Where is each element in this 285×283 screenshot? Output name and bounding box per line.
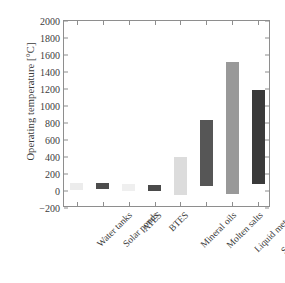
y-tick-label: 0: [55, 186, 64, 197]
y-tick-mark: [265, 208, 269, 209]
bar-ates: [122, 184, 135, 190]
y-tick-mark: [64, 208, 68, 209]
y-tick-mark: [64, 123, 68, 124]
y-tick-mark: [265, 191, 269, 192]
y-tick-label: 1200: [40, 84, 64, 95]
x-tick-mark: [77, 202, 78, 206]
x-tick-mark: [129, 202, 130, 206]
x-tick-mark: [103, 21, 104, 25]
y-tick-mark: [64, 106, 68, 107]
y-tick-label: 2000: [40, 16, 64, 27]
y-tick-mark: [265, 89, 269, 90]
x-tick-label: BTES: [166, 210, 190, 234]
y-tick-mark: [64, 191, 68, 192]
y-tick-mark: [64, 55, 68, 56]
y-tick-mark: [265, 123, 269, 124]
y-tick-label: 200: [45, 169, 64, 180]
y-tick-label: 800: [45, 118, 64, 129]
y-tick-mark: [265, 72, 269, 73]
bar-btes: [148, 185, 161, 191]
x-tick-mark: [232, 202, 233, 206]
x-tick-mark: [206, 21, 207, 25]
x-tick-mark: [232, 21, 233, 25]
y-tick-mark: [265, 55, 269, 56]
x-tick-mark: [258, 21, 259, 25]
y-tick-mark: [64, 89, 68, 90]
y-tick-mark: [64, 174, 68, 175]
x-tick-mark: [155, 21, 156, 25]
y-tick-mark: [265, 21, 269, 22]
y-tick-label: 1000: [40, 101, 64, 112]
y-axis-title: Operating temperature [°C]: [25, 12, 36, 192]
y-tick-mark: [64, 140, 68, 141]
y-tick-label: 1800: [40, 33, 64, 44]
y-tick-mark: [64, 21, 68, 22]
y-tick-mark: [265, 157, 269, 158]
chart-figure: Operating temperature [°C] −200020040060…: [0, 0, 285, 283]
bar-solar-ponds: [96, 183, 109, 189]
y-tick-label: 400: [45, 152, 64, 163]
x-tick-mark: [129, 21, 130, 25]
x-tick-mark: [180, 202, 181, 206]
y-tick-mark: [265, 174, 269, 175]
y-tick-label: 1600: [40, 50, 64, 61]
x-tick-mark: [155, 202, 156, 206]
y-tick-mark: [265, 140, 269, 141]
bar-liquid-metals: [226, 62, 239, 194]
x-tick-mark: [103, 202, 104, 206]
x-tick-mark: [206, 202, 207, 206]
x-tick-mark: [77, 21, 78, 25]
bar-solid-particles: [252, 90, 265, 184]
bar-molten-salts: [200, 120, 213, 186]
y-tick-mark: [265, 38, 269, 39]
y-tick-mark: [64, 38, 68, 39]
bar-water-tanks: [70, 183, 83, 191]
y-tick-label: 600: [45, 135, 64, 146]
x-tick-mark: [180, 21, 181, 25]
y-tick-mark: [64, 72, 68, 73]
y-tick-mark: [64, 157, 68, 158]
plot-area: −200020040060080010001200140016001800200…: [63, 20, 270, 207]
x-tick-label: ATES: [140, 210, 163, 233]
x-tick-mark: [258, 202, 259, 206]
bar-mineral-oils: [174, 157, 187, 195]
y-tick-mark: [265, 106, 269, 107]
y-tick-label: −200: [39, 203, 64, 214]
y-tick-label: 1400: [40, 67, 64, 78]
